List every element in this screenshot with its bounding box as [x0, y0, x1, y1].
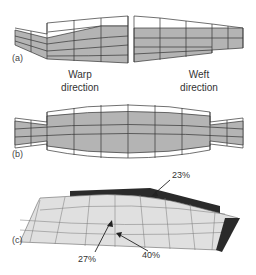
panel-label-b: (b): [12, 149, 23, 159]
weft-direction-caption: Weft direction: [169, 68, 229, 94]
weft-caption-line1: Weft: [169, 68, 229, 81]
warp-caption-line2: direction: [50, 81, 110, 94]
panel-label-a: (a): [12, 53, 23, 63]
warp-direction-caption: Warp direction: [50, 68, 110, 94]
panel-label-c: (c): [12, 235, 23, 245]
warp-strip: [15, 16, 128, 63]
weft-caption-line2: direction: [169, 81, 229, 94]
annotation-23: 23%: [172, 170, 190, 180]
weft-strip: [134, 16, 243, 62]
deformed-3d-model: [20, 180, 240, 252]
figure-canvas: [0, 0, 256, 275]
combined-strip: [15, 104, 243, 158]
annotation-40: 40%: [142, 250, 160, 260]
annotation-27: 27%: [78, 254, 96, 264]
warp-caption-line1: Warp: [50, 68, 110, 81]
